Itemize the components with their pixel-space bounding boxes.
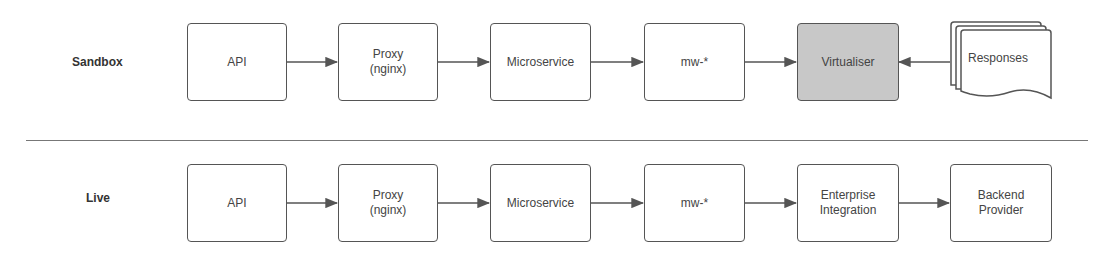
live-enterprise-integration-node: Enterprise Integration [797, 164, 899, 242]
live-proxy-node: Proxy (nginx) [338, 164, 438, 242]
architecture-diagram: Sandbox API Proxy (nginx) Microservice m… [0, 0, 1114, 259]
live-mw-node: mw-* [644, 164, 745, 242]
sandbox-microservice-node: Microservice [490, 23, 591, 101]
row-label-live: Live [86, 191, 110, 205]
live-microservice-node: Microservice [490, 164, 591, 242]
sandbox-mw-node: mw-* [644, 23, 745, 101]
sandbox-virtualiser-node: Virtualiser [797, 23, 899, 101]
sandbox-responses-label: Responses [968, 51, 1028, 65]
sandbox-api-node: API [187, 23, 287, 101]
live-api-node: API [187, 164, 287, 242]
sandbox-proxy-node: Proxy (nginx) [338, 23, 438, 101]
row-label-sandbox: Sandbox [72, 55, 123, 69]
live-backend-provider-node: Backend Provider [950, 164, 1052, 242]
row-separator [26, 140, 1088, 141]
